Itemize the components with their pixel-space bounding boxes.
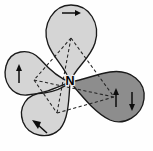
top-lobe-shape — [46, 5, 96, 82]
orbital-diagram: sp3 hybrid orbitals of nitrogen with ele… — [0, 0, 153, 151]
right-lobe — [70, 72, 144, 122]
right-lobe-shape — [70, 72, 144, 122]
center-atom-label: N — [65, 74, 74, 88]
top-lobe — [46, 5, 96, 82]
orbital-diagram-canvas: sp3 hybrid orbitals of nitrogen with ele… — [0, 0, 153, 151]
